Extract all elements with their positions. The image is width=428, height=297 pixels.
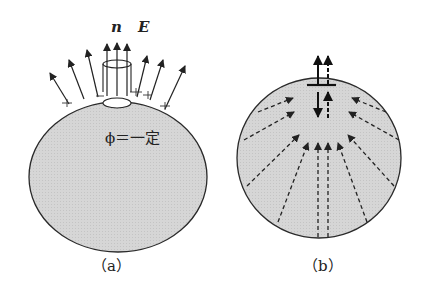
equipotential-label: ϕ＝一定: [105, 129, 160, 147]
diagram-canvas: n E ϕ＝一定 （a）: [0, 0, 428, 297]
figure-b-caption: （b）: [303, 257, 343, 275]
field-vector-label: E: [137, 18, 150, 36]
figure-a: n E ϕ＝一定 （a）: [29, 18, 207, 275]
figure-b: （b）: [237, 56, 401, 275]
conductor-body-a: [29, 102, 207, 252]
normal-vector-label: n: [111, 18, 122, 36]
figure-a-caption: （a）: [92, 257, 131, 275]
